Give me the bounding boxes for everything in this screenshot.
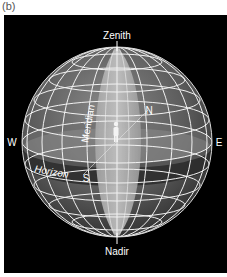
north-label: N [145,105,152,116]
celestial-sphere-diagram: Zenith Nadir N S E W Meridian Horizon [0,0,227,277]
east-label: E [216,137,223,148]
zenith-label: Zenith [103,30,131,41]
south-label: S [83,173,90,184]
nadir-label: Nadir [105,246,130,257]
west-label: W [7,137,17,148]
